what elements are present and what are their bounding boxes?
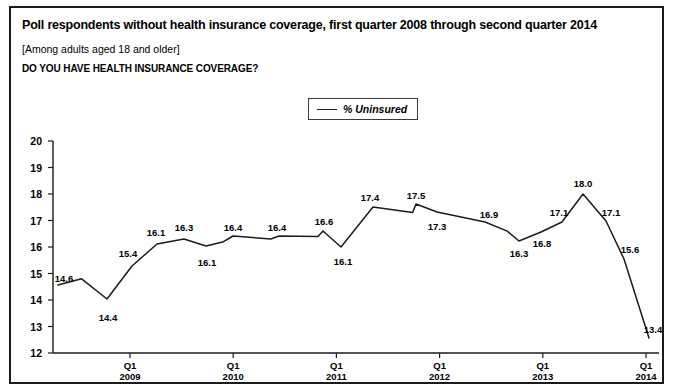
x-tick-quarter: Q1 xyxy=(100,360,160,371)
data-point-label: 18.0 xyxy=(574,178,593,189)
y-tick-label: 12 xyxy=(20,347,42,359)
data-point-label: 13.4 xyxy=(644,324,663,335)
data-point-label: 15.4 xyxy=(119,248,138,259)
x-tick-label: Q12011 xyxy=(306,360,366,382)
x-tick-year: 2013 xyxy=(513,371,573,382)
x-tick-year: 2012 xyxy=(410,371,470,382)
x-tick-year: 2014 xyxy=(616,371,664,382)
x-tick-year: 2009 xyxy=(100,371,160,382)
data-point-label: 16.3 xyxy=(175,222,194,233)
x-tick-year: 2011 xyxy=(306,371,366,382)
data-point-label: 17.4 xyxy=(361,192,380,203)
y-tick-label: 17 xyxy=(20,215,42,227)
chart-svg xyxy=(11,8,664,384)
x-tick-quarter: Q1 xyxy=(203,360,263,371)
x-tick-quarter: Q1 xyxy=(306,360,366,371)
axes xyxy=(53,141,659,353)
data-point-label: 14.4 xyxy=(99,312,118,323)
x-tick-quarter: Q1 xyxy=(410,360,470,371)
chart-frame: Poll respondents without health insuranc… xyxy=(9,6,664,384)
x-tick-label: Q12014 xyxy=(616,360,664,382)
x-tick-marks xyxy=(130,353,646,358)
x-tick-quarter: Q1 xyxy=(616,360,664,371)
data-point-label: 16.9 xyxy=(480,209,499,220)
plot-area: 201918171615141312 Q12009Q12010Q12011Q12… xyxy=(11,8,664,384)
data-point-label: 16.4 xyxy=(224,222,243,233)
x-tick-label: Q12009 xyxy=(100,360,160,382)
data-point-label: 17.1 xyxy=(602,207,621,218)
data-point-label: 16.1 xyxy=(198,257,217,268)
y-tick-label: 15 xyxy=(20,268,42,280)
data-point-label: 16.1 xyxy=(334,256,353,267)
data-point-label: 17.5 xyxy=(407,190,426,201)
y-tick-label: 18 xyxy=(20,188,42,200)
x-tick-quarter: Q1 xyxy=(513,360,573,371)
data-point-label: 16.1 xyxy=(147,227,166,238)
x-tick-label: Q12013 xyxy=(513,360,573,382)
data-point-label: 15.6 xyxy=(621,244,640,255)
y-tick-label: 19 xyxy=(20,162,42,174)
data-point-label: 17.1 xyxy=(550,207,569,218)
y-tick-label: 16 xyxy=(20,241,42,253)
x-tick-label: Q12012 xyxy=(410,360,470,382)
data-point-label: 17.3 xyxy=(428,221,447,232)
x-tick-label: Q12010 xyxy=(203,360,263,382)
data-point-label: 16.8 xyxy=(533,238,552,249)
data-point-label: 16.4 xyxy=(268,222,287,233)
y-tick-label: 13 xyxy=(20,321,42,333)
x-tick-year: 2010 xyxy=(203,371,263,382)
y-tick-label: 14 xyxy=(20,294,42,306)
data-point-label: 14.6 xyxy=(55,273,74,284)
data-point-label: 16.6 xyxy=(315,216,334,227)
data-point-label: 16.3 xyxy=(510,248,529,259)
y-tick-label: 20 xyxy=(20,135,42,147)
y-tick-marks xyxy=(48,141,53,353)
